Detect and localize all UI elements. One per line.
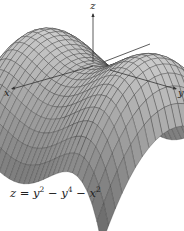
x-axis-label: x xyxy=(4,87,10,98)
y-axis-label: y xyxy=(177,87,184,98)
eq-term-1-exp: 2 xyxy=(40,185,45,194)
eq-sign-2: − xyxy=(48,186,58,200)
eq-lhs: z xyxy=(10,186,16,200)
eq-term-2-exp: 4 xyxy=(68,185,73,194)
surface-mesh xyxy=(0,28,184,231)
eq-term-3-exp: 2 xyxy=(96,185,101,194)
z-axis-label: z xyxy=(89,0,96,11)
eq-sign-3: − xyxy=(76,186,86,200)
equation-label: z = y2 − y4 − x2 xyxy=(10,186,101,200)
